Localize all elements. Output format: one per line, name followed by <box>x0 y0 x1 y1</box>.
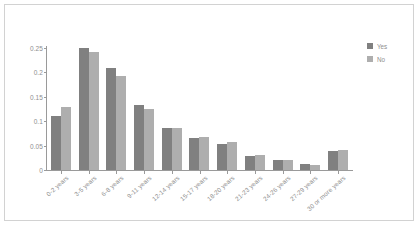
bar-no <box>172 128 182 170</box>
bar-no <box>144 109 154 170</box>
x-axis-tick-mark <box>89 171 90 174</box>
y-axis-tick-label: 0.15 <box>30 93 43 100</box>
bar-yes <box>189 138 199 170</box>
bar-no <box>283 160 293 170</box>
bar-group <box>47 48 75 170</box>
bar-group <box>75 48 103 170</box>
x-axis-tick-mark <box>227 171 228 174</box>
y-axis-tick-label: 0.1 <box>34 118 43 125</box>
bar-group <box>269 48 297 170</box>
bar-yes <box>245 156 255 170</box>
bar-no <box>310 165 320 170</box>
x-axis-category-label: 3-5 years <box>72 174 97 197</box>
legend-label: No <box>377 56 385 63</box>
y-axis-tick-label: 0 <box>39 167 43 174</box>
bar-group <box>102 48 130 170</box>
bar-group <box>241 48 269 170</box>
bar-group <box>297 48 325 170</box>
x-axis-category-label: 6-8 years <box>100 174 125 197</box>
bar-no <box>116 76 126 170</box>
y-axis-tick-label: 0.05 <box>30 142 43 149</box>
bar-group <box>158 48 186 170</box>
bar-group <box>213 48 241 170</box>
legend-label: Yes <box>377 43 387 50</box>
x-axis-category-label: 9-11 years <box>126 174 153 199</box>
bar-yes <box>106 68 116 170</box>
bar-no <box>199 137 209 170</box>
bar-no <box>89 52 99 170</box>
bar-group <box>186 48 214 170</box>
x-axis-category-label: 18-20 years <box>206 174 236 202</box>
bar-yes <box>134 105 144 170</box>
chart-legend: YesNo <box>367 41 413 67</box>
bar-yes <box>79 48 89 170</box>
x-axis-category-label: 21-23 years <box>233 174 263 202</box>
x-axis-category-label: 24-26 years <box>261 174 291 202</box>
bar-no <box>338 150 348 170</box>
chart-figure: 00.050.10.150.20.25 0-2 years3-5 years6-… <box>0 0 419 226</box>
legend-item-no[interactable]: No <box>367 54 413 64</box>
bar-no <box>227 142 237 170</box>
bar-yes <box>300 164 310 170</box>
bar-yes <box>51 116 61 170</box>
plot-wrapper: 00.050.10.150.20.25 0-2 years3-5 years6-… <box>0 0 419 226</box>
x-axis-tick-mark <box>61 171 62 174</box>
x-axis-tick-mark <box>283 171 284 174</box>
x-axis-tick-mark <box>116 171 117 174</box>
bar-group <box>324 48 352 170</box>
bar-group <box>130 48 158 170</box>
x-axis-tick-mark <box>338 171 339 174</box>
bar-no <box>61 107 71 170</box>
x-axis-tick-mark <box>172 171 173 174</box>
bar-yes <box>217 144 227 170</box>
x-axis-category-label: 12-14 years <box>150 174 180 202</box>
legend-item-yes[interactable]: Yes <box>367 41 413 51</box>
x-axis-tick-mark <box>310 171 311 174</box>
bar-yes <box>273 160 283 170</box>
x-axis-category-labels: 0-2 years3-5 years6-8 years9-11 years12-… <box>47 171 352 226</box>
x-axis-tick-mark <box>200 171 201 174</box>
legend-swatch-icon <box>367 56 373 62</box>
y-axis-tick-label: 0.25 <box>30 45 43 52</box>
bar-no <box>255 155 265 170</box>
x-axis-category-label: 0-2 years <box>45 174 70 197</box>
plot-area <box>47 48 352 170</box>
x-axis-category-label: 15-17 years <box>178 174 208 202</box>
y-axis-tick-labels: 00.050.10.150.20.25 <box>0 0 43 226</box>
y-axis-tick-label: 0.2 <box>34 69 43 76</box>
bar-yes <box>328 151 338 170</box>
bar-yes <box>162 128 172 170</box>
legend-swatch-icon <box>367 43 373 49</box>
x-axis-tick-mark <box>255 171 256 174</box>
x-axis-tick-mark <box>144 171 145 174</box>
